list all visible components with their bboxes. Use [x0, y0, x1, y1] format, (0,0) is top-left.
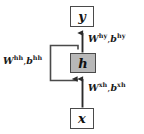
node-x-label: x [78, 112, 86, 125]
label-hh-bias-superscript: hh [33, 54, 43, 62]
label-weights-xh: Wxh,bxh [88, 82, 126, 93]
node-x: x [70, 108, 94, 129]
label-xh-weight-symbol: W [88, 82, 99, 93]
node-h: h [70, 53, 96, 73]
label-weights-hh: Whh,bhh [3, 55, 42, 66]
label-hy-bias-superscript: hy [117, 32, 126, 40]
label-hh-weight-symbol: W [3, 55, 14, 66]
label-hy-weight-superscript: hy [99, 32, 108, 40]
label-xh-bias-superscript: xh [117, 81, 126, 89]
diagram-canvas: y h x Why,bhy Whh,bhh Wxh,bxh [0, 0, 144, 134]
node-y: y [70, 6, 94, 27]
label-hh-bias-symbol: b [26, 55, 33, 66]
node-y-label: y [78, 10, 86, 23]
label-weights-hy: Why,bhy [88, 33, 125, 44]
label-hy-weight-symbol: W [88, 33, 99, 44]
label-hy-bias-symbol: b [110, 33, 117, 44]
label-hh-weight-superscript: hh [14, 54, 24, 62]
node-h-label: h [78, 57, 87, 70]
